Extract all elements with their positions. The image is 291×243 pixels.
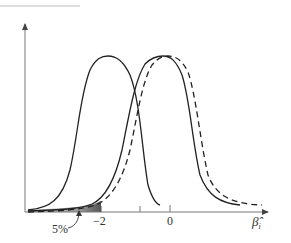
tick-label-minus2: −2 (93, 215, 106, 227)
left-solid-curve (28, 56, 160, 210)
percent-leader-arrow (68, 214, 79, 228)
percent-label: 5% (52, 223, 68, 235)
x-axis-subscript: i (258, 222, 260, 231)
tick-label-zero: 0 (167, 215, 173, 227)
distribution-chart (0, 0, 291, 243)
x-axis-label: β̂i (252, 215, 261, 231)
